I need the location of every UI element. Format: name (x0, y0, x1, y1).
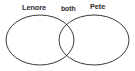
venn-label-overlap: both (61, 4, 76, 13)
venn-circle-left (6, 15, 74, 65)
venn-label-right: Pete (90, 2, 105, 11)
venn-diagram: Lenore both Pete (0, 0, 135, 71)
venn-label-left: Lenore (22, 3, 46, 12)
venn-circle-right (59, 15, 129, 65)
